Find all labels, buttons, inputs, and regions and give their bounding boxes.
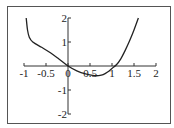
y-tick-label: -2	[58, 108, 67, 120]
x-tick-label: 0	[65, 67, 71, 79]
line-chart: -1-0.500.511.5221-1-2	[0, 0, 174, 128]
y-tick-label: -1	[58, 84, 67, 96]
y-tick-label: 2	[62, 12, 68, 24]
x-tick-label: 2	[153, 67, 159, 79]
y-tick-label: 1	[62, 36, 68, 48]
x-tick-label: 0.5	[83, 67, 97, 79]
x-tick-label: -0.5	[37, 67, 55, 79]
x-tick-label: -1	[19, 67, 28, 79]
x-tick-label: 1.5	[127, 67, 141, 79]
axes	[24, 18, 156, 114]
